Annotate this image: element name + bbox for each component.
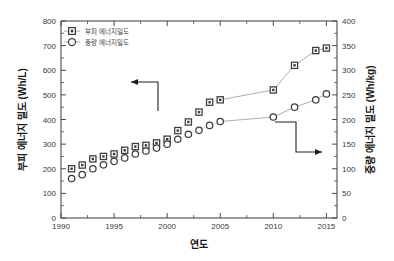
data-point-square-core [325,47,327,49]
data-point-circle [217,118,223,124]
y-tick-label: 400 [43,116,57,125]
x-tick-label: 2015 [317,222,335,231]
data-point-circle [291,104,297,110]
data-point-square-core [123,149,125,151]
y-axis-right-label: 중량 에너지 밀도 (Wh/kg) [364,66,376,174]
data-point-circle [196,127,202,133]
data-point-circle [153,145,159,151]
x-tick-label: 2000 [158,222,176,231]
data-point-square-core [187,121,189,123]
data-point-square-core [293,64,295,66]
data-point-square-core [102,155,104,157]
y-axis-left-label: 부피 에너지 밀도 (Wh/L) [16,68,28,170]
x-tick-label: 2005 [211,222,229,231]
y2-tick-label: 350 [342,42,356,51]
data-point-circle [175,136,181,142]
y-tick-label: 300 [43,140,57,149]
x-tick-label: 1995 [105,222,123,231]
data-point-square-core [155,142,157,144]
data-point-square-core [219,99,221,101]
data-point-circle [185,131,191,137]
y2-tick-label: 400 [342,17,356,26]
x-axis-label: 연도 [190,238,208,250]
data-point-circle [270,114,276,120]
data-point-square-core [272,89,274,91]
data-point-square-core [166,138,168,140]
y2-tick-label: 100 [342,165,356,174]
y2-tick-label: 250 [342,91,356,100]
data-point-square-core [208,101,210,103]
data-point-square-core [315,49,317,51]
data-point-circle [68,175,74,181]
y2-tick-label: 200 [342,116,356,125]
data-point-circle [79,171,85,177]
data-point-square-core [145,144,147,146]
data-point-circle [121,155,127,161]
legend-label: 부피 에너지밀도 [85,27,129,36]
y-axis-left-tick-labels: 0100200300400500600700800 [43,17,57,223]
chart-figure: 199019952000200520102015 010020030040050… [0,0,394,261]
data-point-circle [100,162,106,168]
y2-tick-label: 50 [342,189,351,198]
data-point-square-core [198,111,200,113]
y-tick-label: 700 [43,42,57,51]
y-tick-label: 800 [43,17,57,26]
legend-marker-square-core [71,30,74,33]
y-tick-label: 100 [43,189,57,198]
data-point-circle [143,148,149,154]
data-point-circle [206,122,212,128]
data-point-square-core [113,153,115,155]
data-point-circle [323,91,329,97]
y2-tick-label: 150 [342,140,356,149]
y2-tick-label: 0 [342,214,347,223]
y-tick-label: 0 [52,214,57,223]
data-point-square-core [81,164,83,166]
data-point-square-core [70,168,72,170]
dual-axis-scatter-chart: 199019952000200520102015 010020030040050… [0,0,394,261]
y2-tick-label: 300 [342,66,356,75]
x-tick-label: 1990 [52,222,70,231]
x-tick-label: 2010 [264,222,282,231]
data-point-square-core [92,158,94,160]
y-tick-label: 600 [43,66,57,75]
data-point-circle [111,158,117,164]
data-point-circle [164,141,170,147]
legend-label: 중량 에너지밀도 [85,38,129,47]
data-point-circle [313,97,319,103]
data-point-square-core [134,145,136,147]
data-point-square-core [177,129,179,131]
y-tick-label: 500 [43,91,57,100]
data-point-circle [132,151,138,157]
legend-marker-circle [69,39,76,46]
y-tick-label: 200 [43,165,57,174]
data-point-circle [90,166,96,172]
